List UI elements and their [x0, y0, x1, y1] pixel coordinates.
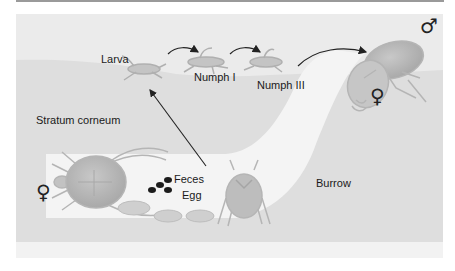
label-egg: Egg — [182, 190, 202, 201]
label-larva: Larva — [101, 54, 129, 65]
label-feces: Feces — [174, 174, 204, 185]
top-border-line — [16, 0, 444, 2]
label-burrow: Burrow — [316, 178, 351, 189]
female-symbol-icon-left: ♀ — [36, 182, 51, 202]
nymph3-mite — [244, 49, 282, 72]
label-nymph1: Numph I — [194, 72, 236, 83]
life-cycle-diagram: Larva Numph I Numph III Stratum corneum … — [16, 14, 443, 258]
female-symbol-icon-top: ♀ — [370, 86, 385, 106]
label-stratum-corneum: Stratum corneum — [36, 115, 120, 126]
arrow-nymph1-to-nymph3 — [230, 48, 260, 54]
label-nymph3: Numph III — [257, 80, 305, 91]
male-symbol-icon: ♂ — [420, 16, 438, 36]
arrow-larva-to-nymph1 — [168, 48, 198, 54]
diagram-artwork — [16, 14, 443, 258]
